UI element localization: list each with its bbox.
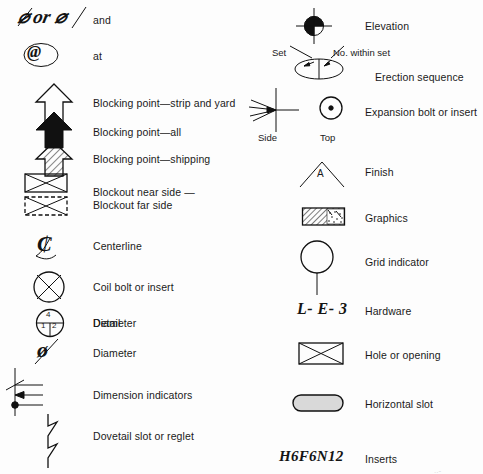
centerline-label: Centerline (93, 240, 142, 253)
expansion-bolt-top-view-icon (316, 93, 346, 123)
detail-quadrant-top: 4 (46, 310, 50, 319)
erection-leader-right (330, 44, 350, 62)
finish-label: Finish (365, 166, 394, 179)
blocking-all-label: Blocking point—all (93, 126, 181, 139)
circle-with-x-icon (30, 268, 68, 306)
detail-quadrant-bottom-right: 2 (52, 321, 56, 330)
centerline-glyph-tail (30, 230, 66, 264)
expansion-bolt-side-view-icon (245, 88, 303, 134)
blockout-label: Blockout near side — Blockout far side (93, 186, 195, 212)
at-glyph-circle (22, 42, 62, 70)
detail-label-text: Detail (93, 317, 120, 330)
erection-callout-left: Set (272, 47, 286, 58)
and-glyph-strikes (14, 4, 94, 34)
erection-leader-left (290, 44, 320, 62)
expansion-bolt-top-label: Top (320, 132, 335, 143)
diameter-glyph-slash (30, 336, 66, 368)
elevation-label: Elevation (365, 20, 409, 33)
expansion-bolt-side-label: Side (258, 132, 277, 143)
inserts-label: Inserts (365, 453, 397, 466)
finish-letter: A (317, 168, 324, 179)
inserts-glyph: H6F6N12 (279, 448, 344, 465)
detail-quadrant-bottom-left: 1 (41, 321, 45, 330)
dovetail-zigzag-icon (40, 412, 66, 470)
horizontal-slot-capsule-icon (291, 391, 347, 415)
expansion-bolt-label: Expansion bolt or insert (365, 106, 477, 119)
dimension-indicator-lines-icon (0, 366, 48, 418)
blocking-shipping-label: Blocking point—shipping (93, 153, 210, 166)
grid-indicator-balloon-icon (297, 238, 337, 296)
hole-opening-label: Hole or opening (365, 349, 441, 362)
symbol-legend-sheet: ⌀ or ⌀ and @ at Blocking point—strip and… (0, 0, 483, 474)
erection-sequence-label: Erection sequence (375, 71, 464, 84)
and-label: and (93, 14, 111, 27)
hardware-glyph: L- E- 3 (297, 300, 348, 318)
dimension-indicators-label: Dimension indicators (93, 389, 192, 402)
coil-bolt-label: Coil bolt or insert (93, 281, 174, 294)
page-number-fragment: ..- (434, 466, 441, 474)
diameter-label: Diameter (93, 347, 136, 360)
blocking-strip-yard-label: Blocking point—strip and yard (93, 97, 235, 110)
horizontal-slot-label: Horizontal slot (365, 398, 433, 411)
hole-rectangle-with-x-icon (297, 340, 347, 368)
elevation-target-icon (296, 8, 332, 44)
at-label: at (93, 50, 102, 63)
graphics-label: Graphics (365, 212, 408, 225)
hardware-label: Hardware (365, 305, 411, 318)
dovetail-label: Dovetail slot or reglet (93, 430, 194, 443)
grid-indicator-label: Grid indicator (365, 256, 429, 269)
graphics-hatched-box-icon (301, 206, 347, 230)
blockout-rectangles-icon (23, 172, 73, 218)
